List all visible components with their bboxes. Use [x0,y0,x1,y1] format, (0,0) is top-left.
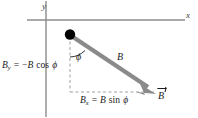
x-comp-trig: sin [109,95,120,105]
vector-component-diagram: y x B B ϕ By = −B cos ϕ Bx = B sin ϕ [0,0,198,118]
y-comp-trig: cos [36,60,49,70]
x-component-equation: Bx = B sin ϕ [80,96,128,106]
vector-symbol-label: B [158,91,164,101]
y-comp-angle: ϕ [52,60,57,70]
vector-tail-dot [65,29,75,39]
x-comp-angle: ϕ [123,95,128,105]
x-comp-magnitude: B [100,95,106,105]
y-axis-label: y [42,2,46,11]
vector-arrow-shaft [70,35,148,87]
angle-phi-label: ϕ [76,52,81,62]
vector-magnitude-label: B [117,52,123,62]
vector-accent-glyph: B [158,91,164,101]
y-component-equation: By = −B cos ϕ [2,61,57,71]
x-axis-label: x [186,11,190,20]
